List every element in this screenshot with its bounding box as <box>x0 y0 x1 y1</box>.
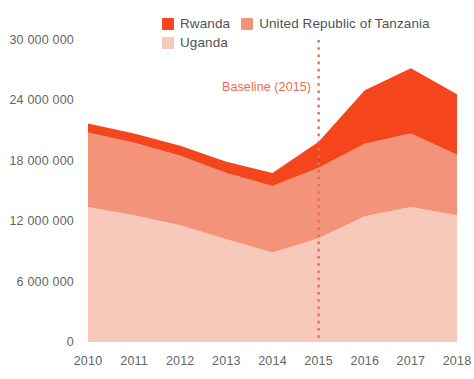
legend-label-rwanda: Rwanda <box>180 14 230 33</box>
x-tick-2018: 2018 <box>443 354 472 368</box>
baseline-annotation-label: Baseline (2015) <box>222 80 311 94</box>
x-tick-2010: 2010 <box>74 354 103 368</box>
x-tick-2012: 2012 <box>166 354 195 368</box>
x-tick-2016: 2016 <box>350 354 379 368</box>
x-tick-2017: 2017 <box>397 354 426 368</box>
title-strip <box>132 0 312 7</box>
legend-item-rwanda[interactable]: Rwanda <box>162 14 230 33</box>
legend-swatch-rwanda <box>162 18 174 30</box>
y-tick-0: 0 <box>67 335 74 349</box>
y-axis: 30 000 000 24 000 000 18 000 000 12 000 … <box>0 0 82 379</box>
stacked-area-chart: Rwanda United Republic of Tanzania Ugand… <box>0 0 474 379</box>
y-tick-30000000: 30 000 000 <box>9 33 74 47</box>
legend-item-tanzania[interactable]: United Republic of Tanzania <box>241 14 430 33</box>
y-tick-18000000: 18 000 000 <box>9 154 74 168</box>
x-axis: 2010 2011 2012 2013 2014 2015 2016 2017 … <box>0 354 474 376</box>
y-tick-12000000: 12 000 000 <box>9 214 74 228</box>
legend-swatch-tanzania <box>241 18 253 30</box>
x-tick-2014: 2014 <box>258 354 287 368</box>
x-tick-2011: 2011 <box>120 354 148 368</box>
x-tick-2013: 2013 <box>212 354 241 368</box>
y-tick-24000000: 24 000 000 <box>9 93 74 107</box>
legend-label-tanzania: United Republic of Tanzania <box>259 14 430 33</box>
x-tick-2015: 2015 <box>304 354 333 368</box>
y-tick-6000000: 6 000 000 <box>17 275 74 289</box>
